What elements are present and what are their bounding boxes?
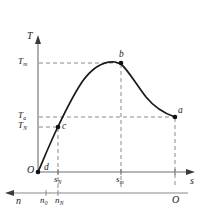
x-tick-sn-sub: N bbox=[58, 179, 62, 185]
n-tick-n0-sub: 0 bbox=[45, 200, 48, 206]
n-axis-label: n bbox=[16, 196, 21, 206]
point-marker-d bbox=[36, 170, 41, 175]
point-label-b: b bbox=[119, 50, 124, 60]
x-tick-sn-base: s bbox=[54, 174, 58, 184]
x-tick-sm-base: s bbox=[116, 174, 120, 184]
x-tick-label-sn: sN bbox=[54, 175, 62, 184]
x-tick-label-sm: sm bbox=[116, 175, 124, 184]
y-tick-label-tm: Tm bbox=[18, 57, 27, 66]
y-tick-label-ta: Ta bbox=[18, 111, 26, 120]
origin-label-secondary: O bbox=[172, 195, 179, 205]
n-tick-nn-base: n bbox=[55, 195, 60, 205]
point-label-c: c bbox=[62, 122, 66, 132]
n-axis-arrowhead bbox=[5, 190, 14, 196]
t-s-diagram-figure: T s n O O Tm Ta TN sN sm n0 nN a b c d bbox=[0, 0, 210, 220]
y-tick-tn-sub: N bbox=[23, 125, 27, 131]
point-marker-c bbox=[56, 125, 61, 130]
n-tick-n0-base: n bbox=[40, 195, 45, 205]
n-tick-label-nn: nN bbox=[55, 196, 64, 205]
t-axis-label: T bbox=[27, 31, 33, 41]
point-marker-a bbox=[173, 115, 178, 120]
point-label-a: a bbox=[178, 106, 183, 116]
n-tick-nn-sub: N bbox=[60, 200, 64, 206]
point-label-d: d bbox=[44, 163, 49, 173]
y-tick-label-tn: TN bbox=[18, 121, 27, 130]
y-tick-tm-sub: m bbox=[23, 61, 27, 67]
y-tick-ta-sub: a bbox=[23, 115, 26, 121]
s-axis-label: s bbox=[190, 176, 194, 186]
x-tick-sm-sub: m bbox=[120, 179, 124, 185]
origin-label-main: O bbox=[27, 165, 34, 175]
n-tick-label-n0: n0 bbox=[40, 196, 48, 205]
point-marker-b bbox=[119, 61, 124, 66]
t-axis-arrowhead bbox=[35, 35, 41, 44]
